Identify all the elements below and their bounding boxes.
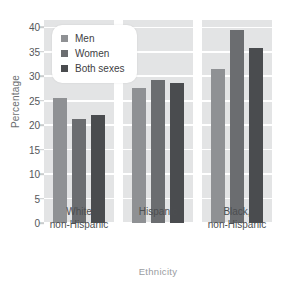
legend-label-both-sexes: Both sexes xyxy=(75,63,124,74)
bar-men[interactable] xyxy=(53,98,67,223)
y-axis-tick-label: 15 xyxy=(29,144,40,155)
y-axis-tick-label: 35 xyxy=(29,46,40,57)
x-axis-group-label: Hispanic xyxy=(123,206,193,219)
bar-men[interactable] xyxy=(211,69,225,223)
y-axis-tick-label: 5 xyxy=(34,193,40,204)
y-axis-tick-label: 0 xyxy=(34,218,40,229)
chart-legend: Men Women Both sexes xyxy=(52,25,137,83)
x-axis-group-label-line: Black, xyxy=(202,206,272,219)
legend-swatch-both-sexes xyxy=(61,65,68,72)
legend-swatch-men xyxy=(61,35,68,42)
bar-women[interactable] xyxy=(230,30,244,223)
legend-label-men: Men xyxy=(75,33,94,44)
bar-women[interactable] xyxy=(151,80,165,223)
bar-both-sexes[interactable] xyxy=(249,48,263,223)
legend-swatch-women xyxy=(61,50,68,57)
x-axis-group-label-line: non-Hispanic xyxy=(44,219,114,232)
bar-men[interactable] xyxy=(132,88,146,223)
y-axis-tick-label: 40 xyxy=(29,22,40,33)
x-axis-group-label-line: White xyxy=(44,206,114,219)
bar-both-sexes[interactable] xyxy=(170,83,184,223)
y-axis-tick-label: 20 xyxy=(29,120,40,131)
y-axis-tick-label: 25 xyxy=(29,95,40,106)
y-axis-tick-label: 30 xyxy=(29,71,40,82)
y-axis-tick-label: 10 xyxy=(29,169,40,180)
x-axis-title: Ethnicity xyxy=(44,266,272,277)
legend-item[interactable]: Women xyxy=(61,46,124,61)
x-axis-group-label: Black,non-Hispanic xyxy=(202,206,272,231)
x-axis-group-label: Whitenon-Hispanic xyxy=(44,206,114,231)
y-axis-title: Percentage xyxy=(10,57,21,147)
x-axis-group-label-line: Hispanic xyxy=(123,206,193,219)
legend-item[interactable]: Men xyxy=(61,31,124,46)
legend-item[interactable]: Both sexes xyxy=(61,61,124,76)
legend-label-women: Women xyxy=(75,48,109,59)
bar-chart-figure: Percentage 0510152025303540 Ethnicity Me… xyxy=(0,0,294,291)
x-axis-group-label-line: non-Hispanic xyxy=(202,219,272,232)
